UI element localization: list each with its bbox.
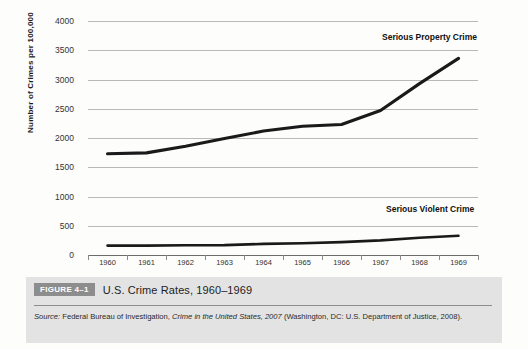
annotation-serious-violent-crime: Serious Violent Crime (386, 204, 474, 214)
figure-title: U.S. Crime Rates, 1960–1969 (103, 284, 252, 296)
caption-divider (34, 305, 492, 306)
figure-container: Number of Crimes per 100,000 05001000150… (0, 0, 528, 349)
source-note: Source: Federal Bureau of Investigation,… (34, 311, 496, 322)
source-publication-title: Crime in the United States, 2007 (172, 312, 282, 321)
source-text-part2: (Washington, DC: U.S. Department of Just… (282, 312, 462, 321)
caption-band: FIGURE 4–1 U.S. Crime Rates, 1960–1969 S… (26, 277, 502, 343)
caption-header: FIGURE 4–1 U.S. Crime Rates, 1960–1969 (34, 283, 252, 296)
line-serious-property-crime (108, 58, 459, 153)
source-label: Source: (34, 312, 60, 321)
annotation-serious-property-crime: Serious Property Crime (382, 32, 477, 42)
line-serious-violent-crime (108, 236, 459, 246)
chart-area: Number of Crimes per 100,000 05001000150… (0, 0, 528, 272)
figure-number-badge: FIGURE 4–1 (34, 283, 95, 296)
source-text-part1: Federal Bureau of Investigation, (60, 312, 172, 321)
